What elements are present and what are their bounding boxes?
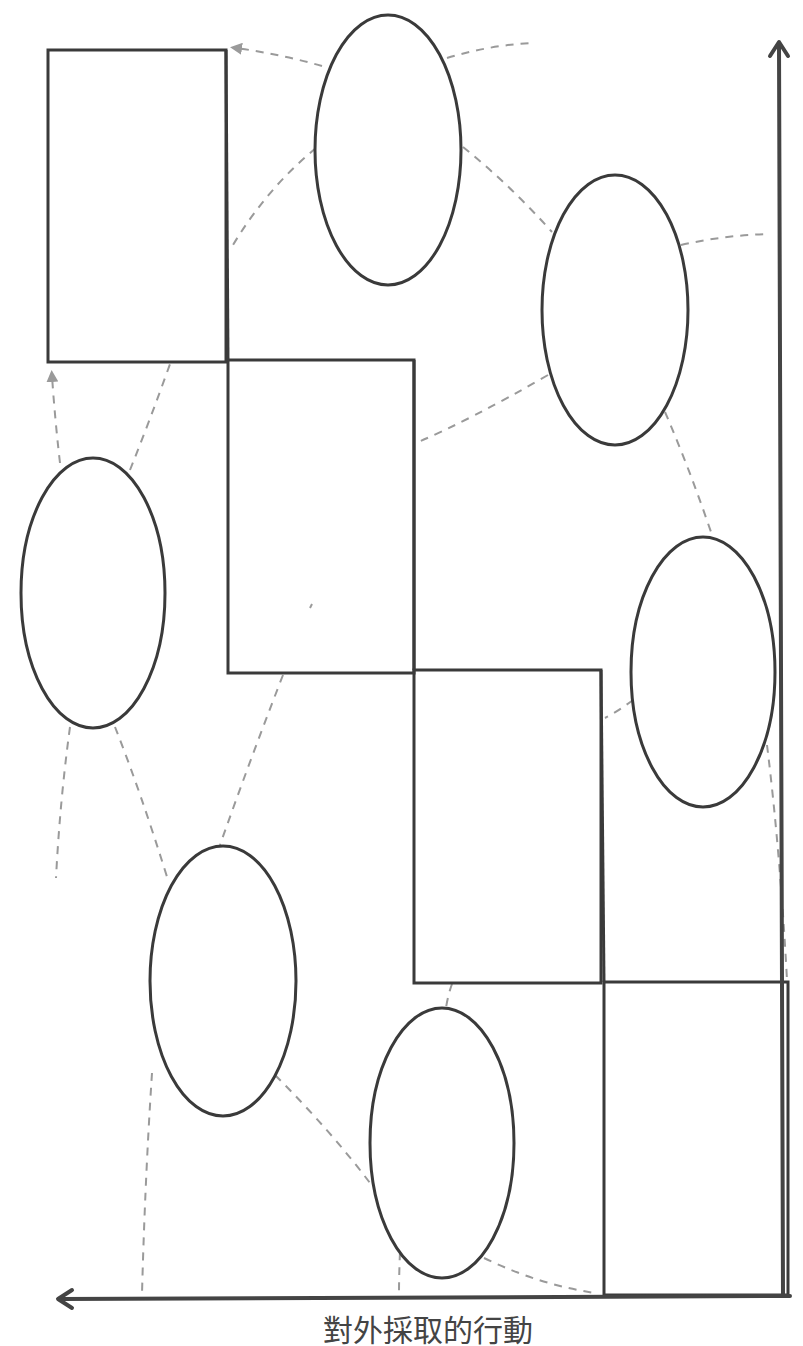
dashed-oval2-right (681, 234, 770, 245)
dashed-oval4-down (767, 745, 787, 980)
horizontal-axis-line (60, 1296, 790, 1299)
dashed-step2-to-oval5 (220, 675, 283, 845)
dashed-oval6-right (484, 1258, 595, 1293)
dashed-top-right (447, 43, 533, 58)
oval-5 (150, 846, 296, 1116)
dashed-oval4-to-step3 (605, 700, 633, 718)
dashed-arrow-top (236, 48, 322, 66)
dashed-oval5-to-oval6 (275, 1075, 370, 1183)
staircase-diagram: 對外採取的行動 (0, 0, 803, 1346)
oval-1 (315, 15, 461, 285)
step-4 (604, 982, 788, 1295)
vertical-axis-line (779, 44, 783, 1296)
step-2 (228, 360, 414, 673)
ovals (21, 15, 775, 1278)
diagram-svg (0, 0, 803, 1346)
horizontal-axis-label: 對外採取的行動 (26, 1306, 803, 1346)
dashed-oval5-down (142, 1073, 152, 1294)
oval-6 (370, 1008, 514, 1278)
oval-3 (21, 458, 165, 728)
dashed-left-oval-down (56, 727, 70, 878)
oval-2 (542, 175, 688, 445)
dashed-left-oval-to-oval5 (115, 727, 168, 880)
step-1 (48, 50, 226, 362)
dashed-top-oval-to-oval2 (463, 147, 552, 232)
dashed-oval6-down (399, 1252, 400, 1294)
oval-4 (631, 537, 775, 807)
step-connector-1 (226, 50, 228, 360)
step-3 (414, 670, 601, 983)
dashed-left-oval-to-step (130, 364, 170, 470)
dashed-stray-mark (310, 604, 312, 608)
dashed-top-oval-to-step1 (230, 148, 316, 250)
dashed-oval2-to-step2 (416, 375, 548, 443)
dashed-arrow-left (52, 376, 60, 463)
dashed-step3-to-oval6 (446, 984, 452, 1008)
dashed-oval2-to-oval4 (665, 412, 712, 535)
